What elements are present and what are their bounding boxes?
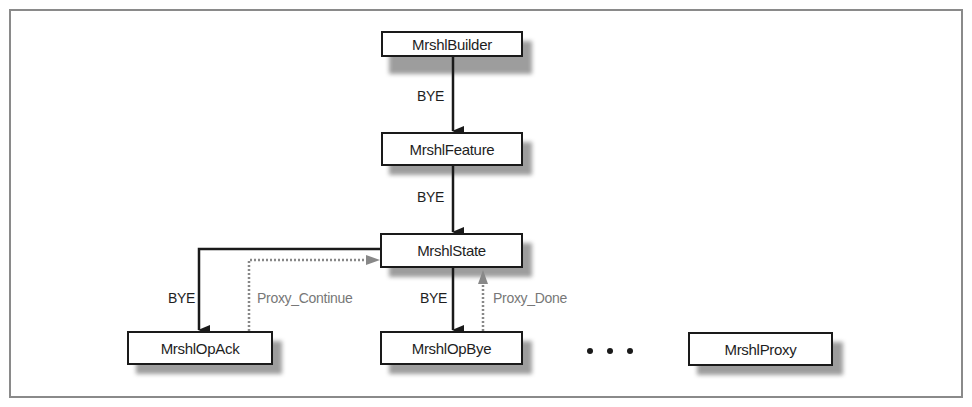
- node-label: MrshlState: [417, 242, 486, 259]
- edge-label-bye: BYE: [417, 189, 444, 205]
- node-mrshl-feature: MrshlFeature: [381, 132, 523, 166]
- edge-label-proxy-done: Proxy_Done: [493, 290, 567, 306]
- edge-label-proxy-continue: Proxy_Continue: [257, 290, 352, 306]
- node-label: MrshlOpBye: [412, 340, 492, 357]
- node-label: MrshlBuilder: [412, 36, 492, 53]
- node-label: MrshlProxy: [724, 341, 796, 358]
- edge-label-bye: BYE: [417, 88, 444, 104]
- node-mrshl-state: MrshlState: [380, 233, 523, 268]
- node-mrshl-op-ack: MrshlOpAck: [127, 331, 273, 365]
- node-mrshl-builder: MrshlBuilder: [381, 31, 523, 57]
- node-label: MrshlOpAck: [161, 340, 240, 357]
- edge-label-bye: BYE: [168, 290, 195, 306]
- edge-opbye-state-proxy-done: [478, 270, 488, 331]
- node-mrshl-op-bye: MrshlOpBye: [380, 331, 523, 365]
- node-mrshl-proxy: MrshlProxy: [688, 332, 833, 366]
- node-label: MrshlFeature: [410, 141, 495, 158]
- edge-label-bye: BYE: [420, 290, 447, 306]
